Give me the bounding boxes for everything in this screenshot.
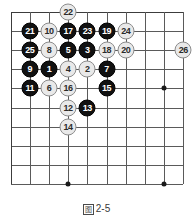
go-stone-move-number: 18 — [102, 45, 111, 54]
go-stone-move-number: 16 — [64, 84, 73, 93]
go-board: 2221101723192425853182026914271161615121… — [0, 0, 193, 196]
star-point — [162, 182, 167, 187]
go-stone-move-number: 8 — [47, 45, 52, 54]
grid-line-vertical — [11, 12, 12, 185]
go-stone-white-2[interactable]: 2 — [79, 61, 96, 78]
go-stone-move-number: 22 — [64, 7, 73, 16]
go-stone-white-4[interactable]: 4 — [60, 61, 77, 78]
go-stone-black-19[interactable]: 19 — [98, 22, 115, 39]
go-diagram-figure: 2221101723192425853182026914271161615121… — [0, 0, 193, 218]
go-stone-black-7[interactable]: 7 — [98, 61, 115, 78]
go-stone-move-number: 13 — [83, 103, 92, 112]
go-stone-white-18[interactable]: 18 — [98, 41, 115, 58]
go-stone-white-22[interactable]: 22 — [60, 3, 77, 20]
go-stone-white-6[interactable]: 6 — [40, 80, 57, 97]
go-stone-white-26[interactable]: 26 — [175, 41, 192, 58]
grid-line-horizontal — [11, 127, 184, 128]
go-stone-black-23[interactable]: 23 — [79, 22, 96, 39]
go-stone-black-1[interactable]: 1 — [40, 61, 57, 78]
go-stone-move-number: 1 — [47, 65, 52, 74]
grid-line-vertical — [164, 12, 165, 185]
go-stone-move-number: 12 — [64, 103, 73, 112]
go-stone-white-12[interactable]: 12 — [60, 99, 77, 116]
caption-box-glyph: 图 — [83, 204, 94, 215]
go-stone-white-8[interactable]: 8 — [40, 41, 57, 58]
go-stone-move-number: 3 — [85, 45, 90, 54]
star-point — [66, 182, 71, 187]
go-stone-white-20[interactable]: 20 — [117, 41, 134, 58]
go-stone-black-25[interactable]: 25 — [21, 41, 38, 58]
grid-line-horizontal — [11, 184, 184, 185]
go-stone-black-21[interactable]: 21 — [21, 22, 38, 39]
go-stone-move-number: 5 — [66, 45, 71, 54]
grid-line-horizontal — [11, 12, 184, 13]
figure-caption: 图 2-5 — [0, 196, 193, 218]
go-stone-move-number: 10 — [44, 26, 53, 35]
go-stone-move-number: 25 — [25, 45, 34, 54]
grid-line-vertical — [183, 12, 184, 185]
go-stone-move-number: 17 — [64, 26, 73, 35]
go-stone-black-15[interactable]: 15 — [98, 80, 115, 97]
go-stone-move-number: 14 — [64, 122, 73, 131]
grid-line-horizontal — [11, 108, 184, 109]
go-stone-move-number: 23 — [83, 26, 92, 35]
go-stone-move-number: 24 — [121, 26, 130, 35]
go-stone-move-number: 19 — [102, 26, 111, 35]
grid-line-horizontal — [11, 146, 184, 147]
go-stone-move-number: 20 — [121, 45, 130, 54]
go-stone-move-number: 21 — [25, 26, 34, 35]
grid-line-vertical — [145, 12, 146, 185]
go-stone-white-24[interactable]: 24 — [117, 22, 134, 39]
go-stone-white-10[interactable]: 10 — [40, 22, 57, 39]
go-stone-move-number: 2 — [85, 65, 90, 74]
go-stone-black-9[interactable]: 9 — [21, 61, 38, 78]
go-stone-black-3[interactable]: 3 — [79, 41, 96, 58]
go-stone-move-number: 26 — [179, 45, 188, 54]
go-stone-white-16[interactable]: 16 — [60, 80, 77, 97]
go-stone-black-13[interactable]: 13 — [79, 99, 96, 116]
star-point — [162, 86, 167, 91]
go-stone-move-number: 4 — [66, 65, 71, 74]
go-stone-move-number: 7 — [104, 65, 109, 74]
go-stone-black-17[interactable]: 17 — [60, 22, 77, 39]
go-stone-white-14[interactable]: 14 — [60, 118, 77, 135]
go-stone-move-number: 11 — [25, 84, 34, 93]
go-stone-black-11[interactable]: 11 — [21, 80, 38, 97]
caption-number: 2-5 — [96, 203, 110, 214]
go-stone-black-5[interactable]: 5 — [60, 41, 77, 58]
go-stone-move-number: 6 — [47, 84, 52, 93]
go-stone-move-number: 15 — [102, 84, 111, 93]
go-stone-move-number: 9 — [27, 65, 32, 74]
grid-line-horizontal — [11, 165, 184, 166]
